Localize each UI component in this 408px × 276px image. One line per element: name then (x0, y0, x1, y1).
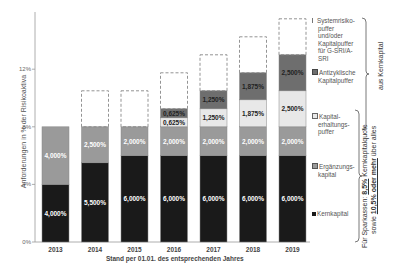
x-tick-label: 2016 (167, 246, 182, 253)
bar-value-label: 1,250% (202, 96, 224, 104)
legend-dashed-swatch-icon (312, 18, 316, 23)
bar-value-label: 1,875% (242, 83, 264, 91)
bar-value-label: 4,000% (44, 210, 66, 218)
bar-value-label: 0,625% (163, 110, 185, 118)
capital-requirements-chart: 0%4%8%12%4,000%4,000%20135,500%2,500%201… (0, 0, 408, 276)
bar-value-label: 6,000% (202, 195, 224, 203)
bar-value-label: 2,000% (202, 138, 224, 146)
bar-value-label: 6,000% (163, 195, 185, 203)
bar-value-label: 5,500% (84, 199, 106, 207)
annotation-sparkassen: Für Sparkassen: 8,5% Kernkapitalquote so… (360, 124, 378, 248)
bar-value-label: 1,250% (202, 114, 224, 122)
legend-tier2: Ergänzungs-kapital (312, 163, 355, 178)
legend-tier1: Kernkapital (312, 210, 349, 218)
bar-segment-systemic-buffer (82, 91, 109, 127)
legend-square-icon (312, 163, 318, 169)
x-axis-title: Stand per 01.01. des entsprechenden Jahr… (106, 255, 244, 262)
bar-value-label: 2,000% (242, 138, 264, 146)
bar-segment-systemic-buffer (279, 19, 306, 55)
bar-value-label: 2,500% (281, 69, 303, 77)
legend-conservation-buffer: Kapital-erhaltungs-puffer (312, 113, 350, 136)
bar-value-label: 2,000% (281, 138, 303, 146)
bar-value-label: 2,000% (123, 138, 145, 146)
x-tick-label: 2013 (48, 246, 63, 253)
legend-systemic-buffer: Systemrisiko-pufferund/oderKapitalpuffer… (312, 17, 355, 63)
bar-segment-systemic-buffer (161, 73, 188, 109)
legend-countercyclical-buffer: AntizyklischeKapitalpuffer (312, 69, 355, 84)
bar-value-label: 6,000% (123, 195, 145, 203)
bar-segment-systemic-buffer (121, 91, 148, 127)
legend-square-icon (312, 69, 318, 75)
legend-square-icon (312, 212, 316, 216)
bar-value-label: 1,875% (242, 110, 264, 118)
bar-segment-systemic-buffer (200, 55, 227, 91)
bar-value-label: 4,000% (44, 152, 66, 160)
x-tick-label: 2017 (206, 246, 221, 253)
x-tick-label: 2015 (127, 246, 142, 253)
x-tick-label: 2018 (246, 246, 261, 253)
annotation-aus-kernkapital: aus Kernkapital (377, 42, 384, 90)
bar-value-label: 0,625% (163, 119, 185, 127)
brace-core-capital-icon (362, 18, 369, 130)
bar-value-label: 6,000% (242, 195, 264, 203)
y-axis-label: Anforderungen in % der Risikoaktiva (20, 47, 27, 217)
bar-value-label: 2,000% (163, 138, 185, 146)
bar-value-label: 2,500% (84, 141, 106, 149)
y-tick-label: 0% (22, 239, 31, 245)
x-tick-label: 2014 (88, 246, 103, 253)
bar-segment-systemic-buffer (240, 37, 267, 73)
bar-value-label: 6,000% (281, 195, 303, 203)
x-tick-label: 2019 (285, 246, 300, 253)
legend-square-icon (312, 113, 318, 119)
bar-value-label: 2,500% (281, 105, 303, 113)
